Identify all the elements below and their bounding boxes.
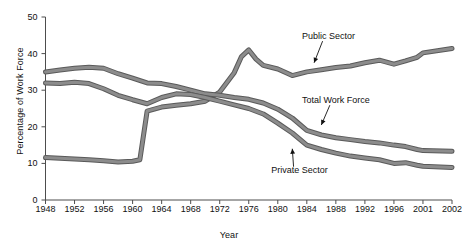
y-tick-label: 30 <box>18 85 38 95</box>
x-tick-label: 1952 <box>64 204 84 214</box>
x-tick-label: 1964 <box>152 204 172 214</box>
x-axis-title: Year <box>0 230 458 240</box>
x-tick-label: 1948 <box>35 204 55 214</box>
x-tick-label: 1996 <box>384 204 404 214</box>
series-outline-2 <box>46 82 453 167</box>
y-tick-label: 50 <box>18 12 38 22</box>
x-tick-label: 1956 <box>94 204 114 214</box>
x-tick-label: 1972 <box>210 204 230 214</box>
y-tick-label: 10 <box>18 158 38 168</box>
series-annotation-label: Private Sector <box>271 165 328 175</box>
series-line-2 <box>46 82 453 167</box>
series-annotation-label: Total Work Force <box>302 95 370 105</box>
x-tick-label: 2001 <box>413 204 433 214</box>
x-tick-label: 1960 <box>123 204 143 214</box>
x-tick-label: 2002 <box>442 204 462 214</box>
x-tick-label: 1992 <box>355 204 375 214</box>
y-tick-label: 0 <box>18 195 38 205</box>
annotation-arrowhead-2 <box>290 149 295 154</box>
chart-series-group <box>46 48 453 167</box>
series-annotation-label: Public Sector <box>302 31 355 41</box>
x-tick-label: 1980 <box>268 204 288 214</box>
x-tick-label: 1984 <box>297 204 317 214</box>
x-tick-label: 1968 <box>181 204 201 214</box>
x-tick-label: 1988 <box>326 204 346 214</box>
y-tick-label: 20 <box>18 122 38 132</box>
x-tick-label: 1976 <box>239 204 259 214</box>
y-tick-label: 40 <box>18 49 38 59</box>
